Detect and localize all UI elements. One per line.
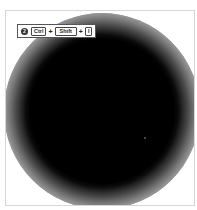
plus-separator: + — [48, 27, 52, 36]
dither-pattern — [5, 13, 195, 206]
key-i: I — [85, 27, 93, 36]
keyboard-shortcut-label: 2 Ctrl + Shift + I — [17, 24, 96, 38]
step-number-badge: 2 — [21, 28, 28, 35]
speck — [144, 137, 146, 139]
plus-separator: + — [79, 27, 83, 36]
key-ctrl: Ctrl — [31, 27, 46, 36]
image-frame: 2 Ctrl + Shift + I — [5, 10, 195, 206]
key-shift: Shift — [55, 27, 77, 36]
